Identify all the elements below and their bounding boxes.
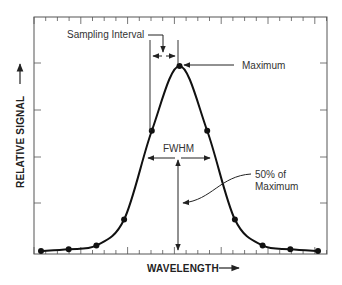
sample-point — [315, 248, 321, 254]
sample-point — [204, 128, 210, 134]
sample-points — [38, 63, 321, 254]
fwhm-annotation: FWHM — [148, 143, 210, 250]
x-axis-label: WAVELENGTH — [147, 263, 219, 274]
maximum-annotation: Maximum — [184, 60, 285, 71]
signal-curve — [41, 66, 318, 251]
half-max-annotation: 50% of Maximum — [183, 169, 298, 203]
sample-point — [287, 246, 293, 252]
sampling-interval-label: Sampling Interval — [67, 29, 144, 40]
sample-point — [177, 63, 183, 69]
y-axis-title: RELATIVE SIGNAL — [15, 64, 26, 188]
x-axis-ticks — [34, 17, 327, 254]
plot-frame — [34, 17, 327, 254]
x-axis-title: WAVELENGTH — [147, 263, 239, 274]
sample-point — [66, 246, 72, 252]
sample-point — [260, 242, 266, 248]
sample-point — [93, 242, 99, 248]
sampling-interval-annotation: Sampling Interval — [67, 29, 178, 131]
spectral-peak-chart: Sampling Interval Maximum FWHM 50% of Ma… — [0, 0, 342, 285]
sample-point — [38, 248, 44, 254]
sample-point — [121, 217, 127, 223]
sample-point — [232, 217, 238, 223]
half-max-label-line1: 50% of — [255, 169, 286, 180]
maximum-label: Maximum — [242, 60, 285, 71]
half-max-label-line2: Maximum — [255, 181, 298, 192]
fwhm-label: FWHM — [163, 143, 194, 154]
y-axis-label: RELATIVE SIGNAL — [15, 96, 26, 188]
